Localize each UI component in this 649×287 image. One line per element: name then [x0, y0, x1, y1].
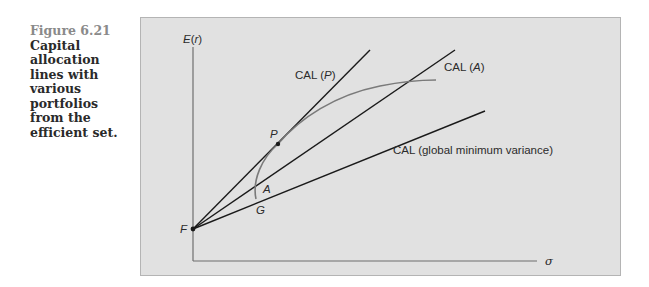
point-g-label: G	[256, 204, 265, 216]
point-a-label: A	[262, 183, 271, 195]
efficient-frontier-curve	[255, 80, 436, 199]
point-f-marker	[191, 227, 196, 232]
cal-p-label: CAL (P)	[295, 69, 336, 81]
point-p-label: P	[270, 128, 278, 140]
x-axis-label: σ	[545, 254, 554, 268]
point-p-marker	[276, 142, 280, 146]
y-axis-label: E(r)	[183, 33, 202, 45]
chart-svg: E(r) σ CAL (P) CAL (A) CAL (global minim…	[0, 0, 649, 287]
cal-gmv-label: CAL (global minimum variance)	[393, 144, 553, 156]
point-f-label: F	[180, 223, 188, 235]
cal-a-label: CAL (A)	[444, 61, 485, 73]
